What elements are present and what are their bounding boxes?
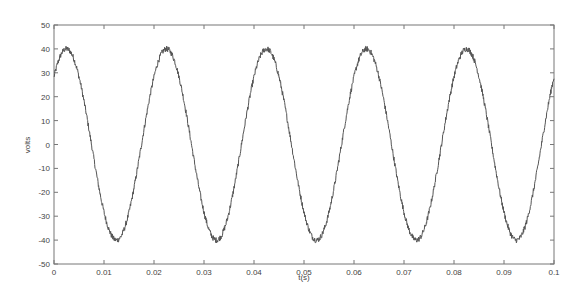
x-tick-label: 0.04 [246,268,262,277]
plot-area [54,25,554,264]
y-tick-label: 0 [46,141,51,150]
x-tick-label: 0.06 [346,268,362,277]
x-tick-label: 0.09 [496,268,512,277]
line-chart: 00.010.020.030.040.050.060.070.080.090.1… [0,0,578,300]
x-tick-label: 0.1 [548,268,560,277]
y-axis-label: volts [23,137,32,153]
y-tick-label: -50 [38,260,50,269]
x-tick-label: 0.03 [196,268,212,277]
x-tick-label: 0.02 [146,268,162,277]
x-tick-label: 0.08 [446,268,462,277]
y-tick-label: -40 [38,236,50,245]
x-tick-label: 0 [52,268,57,277]
x-tick-label: 0.07 [396,268,412,277]
y-tick-label: 20 [41,93,50,102]
y-tick-label: -20 [38,188,50,197]
y-tick-labels: 50403020100-10-20-30-40-50 [38,21,50,269]
y-tick-label: 10 [41,117,50,126]
y-tick-label: 40 [41,45,50,54]
y-tick-label: -30 [38,212,50,221]
y-tick-label: 50 [41,21,50,30]
y-tick-label: 30 [41,69,50,78]
x-axis-label: t(s) [298,273,310,282]
x-tick-label: 0.01 [96,268,112,277]
y-tick-label: -10 [38,164,50,173]
